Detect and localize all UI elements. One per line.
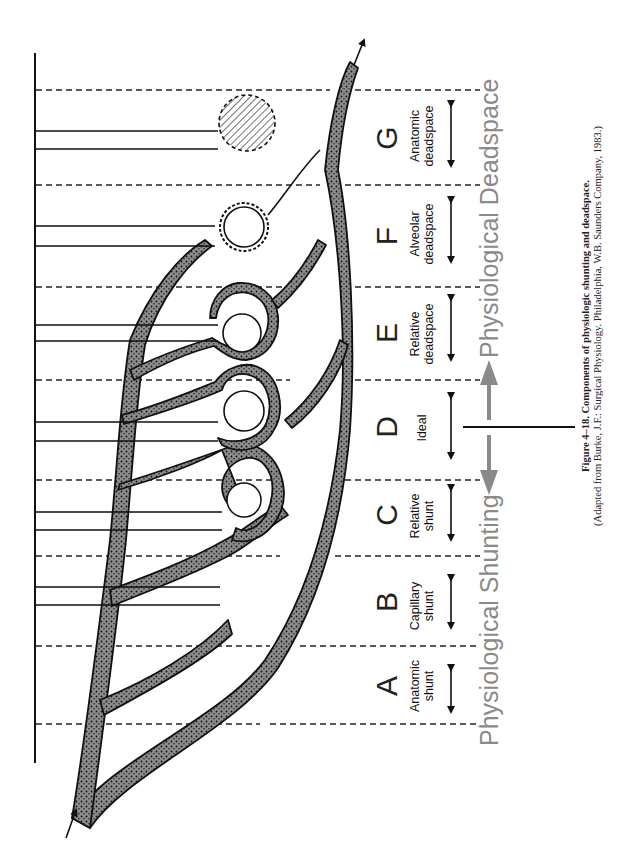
zone-letter-d: D xyxy=(370,407,404,447)
inflow-arrow xyxy=(66,810,76,838)
alveolus-d xyxy=(224,391,264,431)
shunt-deadspace-diagram xyxy=(0,0,641,856)
outflow-arrow xyxy=(354,40,364,65)
main-vessel xyxy=(72,62,358,828)
zone-letter-g: G xyxy=(370,118,404,158)
vessel-network xyxy=(72,62,358,828)
zone-label-d: Ideal xyxy=(415,392,429,464)
physiological-shunting-label: Physiological Shunting xyxy=(475,494,504,746)
zone-label-f: Alveolardeadspace xyxy=(408,198,436,270)
physiological-deadspace-label: Physiological Deadspace xyxy=(475,79,504,358)
caption-title: Figure 4–18. Components of physiologic s… xyxy=(580,56,592,596)
zone-label-c: Relativeshunt xyxy=(408,480,436,552)
alveolus-g xyxy=(219,95,275,151)
figure-diagram: A B C D E F G Anatomicshunt Capillaryshu… xyxy=(0,0,641,856)
zone-letter-c: C xyxy=(370,495,404,535)
figure-caption: Figure 4–18. Components of physiologic s… xyxy=(580,56,604,596)
alveolus-e xyxy=(223,314,261,352)
zone-letter-a: A xyxy=(370,666,404,706)
zone-label-a: Anatomicshunt xyxy=(408,650,436,722)
constricted-vessel xyxy=(268,150,320,215)
zone-label-e: Relativedeadspace xyxy=(408,298,436,370)
zone-letter-b: B xyxy=(370,582,404,622)
zone-label-g: Anatomicdeadspace xyxy=(408,100,436,172)
zone-label-b: Capillaryshunt xyxy=(408,570,436,642)
alveolus-c xyxy=(227,483,261,517)
zone-letter-e: E xyxy=(370,313,404,353)
caption-source: (Adapted from Burke, J.F.: Surgical Phys… xyxy=(592,56,604,596)
zone-letter-f: F xyxy=(370,216,404,256)
